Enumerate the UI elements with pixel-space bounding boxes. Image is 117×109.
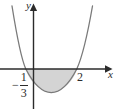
- x-intercept-label-right: 2: [77, 71, 83, 83]
- y-axis-label: y: [26, 0, 31, 11]
- x-axis-label: x: [108, 69, 113, 80]
- fraction-denominator: 3: [20, 87, 28, 100]
- parabola-figure: y x 2 − 1 3: [0, 0, 117, 109]
- x-intercept-label-left: − 1 3: [12, 71, 28, 99]
- minus-sign: −: [12, 79, 19, 91]
- fraction-one-third: 1 3: [20, 71, 28, 99]
- fraction-numerator: 1: [20, 71, 28, 84]
